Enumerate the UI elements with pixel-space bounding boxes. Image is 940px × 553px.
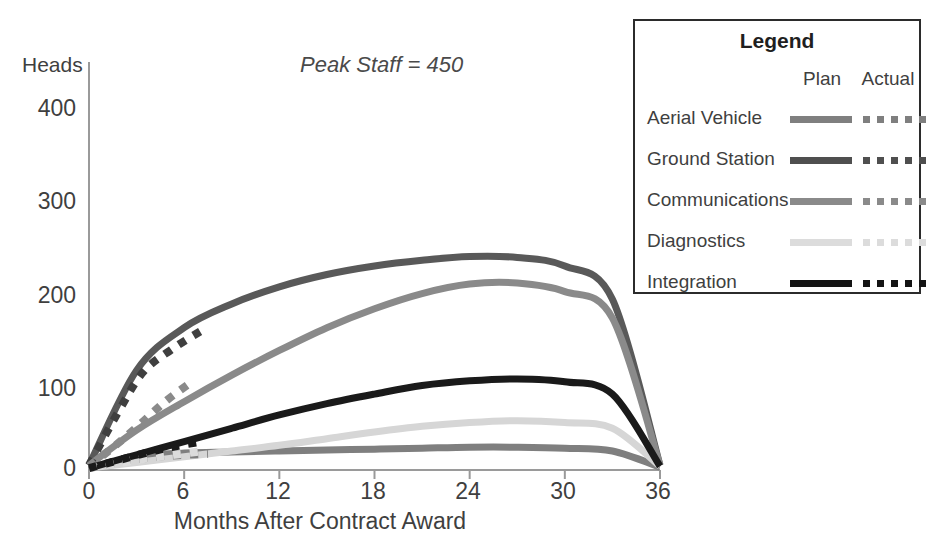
legend-swatch-dash (891, 198, 898, 205)
x-tick-label-30: 30 (538, 478, 588, 505)
legend-swatch-dash (919, 239, 926, 246)
legend-swatch-dash (863, 157, 870, 164)
legend-swatch-dash (863, 116, 870, 123)
y-tick-label-400: 400 (16, 95, 76, 122)
legend-item-label: Integration (647, 271, 737, 293)
legend-swatch-dash (919, 198, 926, 205)
legend-swatch-dash (919, 157, 926, 164)
x-axis-title: Months After Contract Award (0, 508, 640, 535)
legend-item-label: Communications (647, 189, 789, 211)
legend-swatch-dash (891, 280, 898, 287)
legend-swatch-dash (905, 280, 912, 287)
legend-swatch-plan (790, 157, 852, 164)
legend-swatch-dash (877, 239, 884, 246)
legend-item-label: Ground Station (647, 148, 775, 170)
legend-swatch-plan (790, 239, 852, 246)
legend-swatch-actual (863, 116, 925, 123)
legend-swatch-actual (863, 157, 925, 164)
y-tick-label-300: 300 (16, 188, 76, 215)
legend-swatch-dash (919, 116, 926, 123)
y-tick-label-200: 200 (16, 282, 76, 309)
legend-item-label: Diagnostics (647, 230, 745, 252)
legend-swatch-dash (863, 239, 870, 246)
legend-swatch-dash (905, 157, 912, 164)
legend-item-integration[interactable]: Integration (635, 269, 919, 305)
x-tick-label-12: 12 (253, 478, 303, 505)
legend-swatch-dash (877, 280, 884, 287)
legend-swatch-actual (863, 280, 925, 287)
y-axis-title: Heads (22, 53, 83, 77)
legend-swatch-dash (919, 280, 926, 287)
legend-swatch-dash (877, 116, 884, 123)
legend-swatch-dash (891, 116, 898, 123)
x-tick-label-0: 0 (64, 478, 114, 505)
legend-swatch-plan (790, 116, 852, 123)
legend-item-diagnostics[interactable]: Diagnostics (635, 228, 919, 264)
x-tick-label-24: 24 (443, 478, 493, 505)
legend-item-ground-station[interactable]: Ground Station (635, 146, 919, 182)
legend-swatch-plan (790, 198, 852, 205)
peak-staff-annotation: Peak Staff = 450 (300, 52, 463, 78)
legend-swatch-dash (863, 198, 870, 205)
legend-swatch-dash (905, 116, 912, 123)
legend-column-header-actual: Actual (850, 68, 926, 90)
staffing-curve-chart: Heads 400 300 200 100 0 0 6 12 18 24 30 … (0, 0, 940, 553)
legend: Legend Plan Actual Aerial VehicleGround … (633, 19, 921, 294)
legend-swatch-dash (877, 198, 884, 205)
x-tick-label-18: 18 (348, 478, 398, 505)
series-layer (89, 256, 660, 468)
legend-swatch-dash (891, 239, 898, 246)
legend-swatch-dash (905, 239, 912, 246)
x-tick-label-6: 6 (158, 478, 208, 505)
legend-swatch-actual (863, 239, 925, 246)
legend-item-aerial-vehicle[interactable]: Aerial Vehicle (635, 105, 919, 141)
legend-swatch-actual (863, 198, 925, 205)
legend-swatch-dash (905, 198, 912, 205)
legend-swatch-dash (863, 280, 870, 287)
legend-column-header-plan: Plan (787, 68, 857, 90)
legend-item-label: Aerial Vehicle (647, 107, 762, 129)
legend-item-communications[interactable]: Communications (635, 187, 919, 223)
x-tick-label-36: 36 (633, 478, 683, 505)
legend-title: Legend (635, 29, 919, 53)
legend-swatch-dash (877, 157, 884, 164)
series-line-communications-plan (89, 282, 660, 465)
legend-swatch-plan (790, 280, 852, 287)
legend-swatch-dash (891, 157, 898, 164)
y-tick-label-100: 100 (16, 375, 76, 402)
